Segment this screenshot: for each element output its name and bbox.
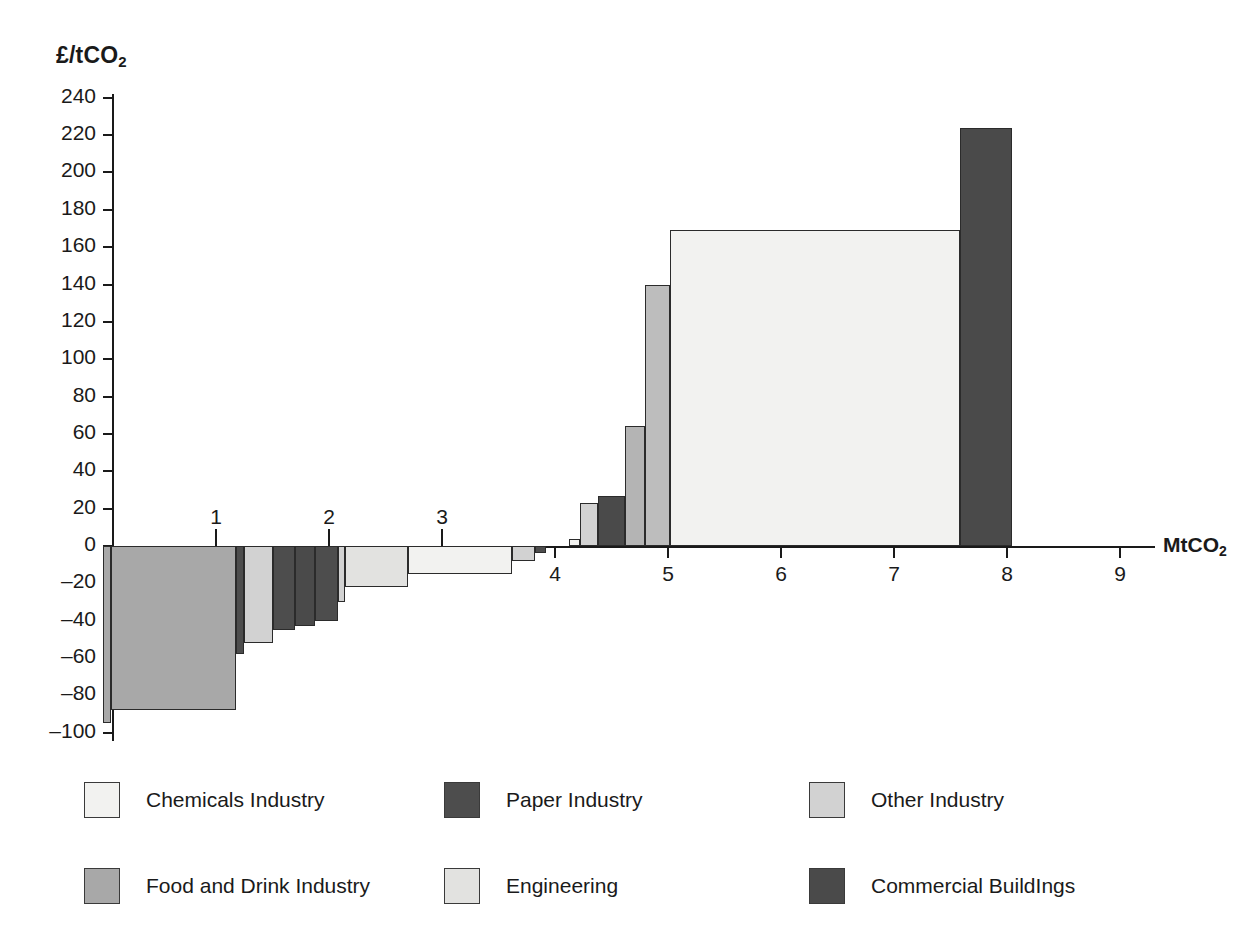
x-axis-tick bbox=[780, 548, 782, 558]
y-axis-tick-label: 60 bbox=[0, 420, 96, 444]
chart-legend: Chemicals IndustryPaper IndustryOther In… bbox=[84, 782, 1174, 922]
bar-segment bbox=[598, 496, 625, 546]
x-axis-tick-label: 1 bbox=[196, 505, 236, 529]
legend-item[interactable]: Paper Industry bbox=[444, 782, 643, 818]
x-axis-tick-label: 2 bbox=[309, 505, 349, 529]
y-axis-tick bbox=[103, 246, 113, 248]
x-axis-tick bbox=[1006, 548, 1008, 558]
x-axis-tick bbox=[215, 529, 217, 547]
y-axis-tick bbox=[103, 134, 113, 136]
y-axis-tick-label: –60 bbox=[0, 644, 96, 668]
bar-segment bbox=[512, 546, 535, 561]
x-axis-tick-label: 5 bbox=[648, 562, 688, 586]
y-axis-tick bbox=[103, 732, 113, 734]
y-axis-tick-label: 120 bbox=[0, 308, 96, 332]
y-axis-tick bbox=[103, 358, 113, 360]
y-axis-title-subscript: 2 bbox=[118, 53, 127, 70]
bar-segment bbox=[645, 285, 670, 546]
bar-segment bbox=[580, 503, 598, 546]
legend-item-label: Engineering bbox=[506, 874, 618, 898]
y-axis-title-main: £/tCO bbox=[56, 42, 118, 68]
legend-item[interactable]: Other Industry bbox=[809, 782, 1004, 818]
bar-segment bbox=[295, 546, 315, 626]
bar-segment bbox=[569, 539, 580, 546]
y-axis-tick bbox=[103, 508, 113, 510]
x-axis-tick-label: 7 bbox=[874, 562, 914, 586]
x-axis-tick bbox=[1119, 548, 1121, 558]
y-axis-tick-label: 180 bbox=[0, 196, 96, 220]
x-axis-tick-label: 4 bbox=[535, 562, 575, 586]
y-axis-tick bbox=[103, 321, 113, 323]
y-axis-tick-label: 0 bbox=[0, 532, 96, 556]
y-axis-tick-label: –80 bbox=[0, 681, 96, 705]
y-axis-tick bbox=[103, 433, 113, 435]
legend-item-label: Food and Drink Industry bbox=[146, 874, 370, 898]
legend-swatch-icon bbox=[444, 868, 480, 904]
y-axis-title: £/tCO2 bbox=[56, 42, 127, 69]
y-axis-tick-label: 20 bbox=[0, 495, 96, 519]
x-axis-tick bbox=[893, 548, 895, 558]
y-axis-tick bbox=[103, 284, 113, 286]
x-axis-tick-label: 8 bbox=[987, 562, 1027, 586]
y-axis-tick-label: 140 bbox=[0, 271, 96, 295]
bar-segment bbox=[535, 546, 546, 553]
bar-segment bbox=[338, 546, 345, 602]
legend-swatch-icon bbox=[444, 782, 480, 818]
legend-item-label: Chemicals Industry bbox=[146, 788, 325, 812]
y-axis-tick bbox=[103, 470, 113, 472]
bar-segment bbox=[625, 426, 645, 546]
legend-swatch-icon bbox=[84, 868, 120, 904]
y-axis-tick-label: –100 bbox=[0, 719, 96, 743]
y-axis-tick-label: 240 bbox=[0, 84, 96, 108]
legend-swatch-icon bbox=[809, 868, 845, 904]
bar-segment bbox=[111, 546, 236, 710]
x-axis-tick-label: 3 bbox=[422, 505, 462, 529]
legend-swatch-icon bbox=[84, 782, 120, 818]
bar-segment bbox=[315, 546, 338, 621]
x-axis-tick-label: 6 bbox=[761, 562, 801, 586]
y-axis-tick bbox=[103, 171, 113, 173]
x-axis-title-subscript: 2 bbox=[1219, 543, 1227, 559]
legend-item-label: Commercial BuildIngs bbox=[871, 874, 1075, 898]
y-axis-tick-label: 200 bbox=[0, 158, 96, 182]
y-axis-tick-label: 220 bbox=[0, 121, 96, 145]
y-axis-tick-label: 100 bbox=[0, 345, 96, 369]
bar-segment bbox=[103, 546, 111, 723]
y-axis-tick bbox=[103, 209, 113, 211]
bar-segment bbox=[670, 230, 959, 546]
y-axis-tick-label: 80 bbox=[0, 383, 96, 407]
legend-item[interactable]: Chemicals Industry bbox=[84, 782, 325, 818]
legend-item[interactable]: Engineering bbox=[444, 868, 618, 904]
y-axis-tick-label: 160 bbox=[0, 233, 96, 257]
x-axis-title: MtCO2 bbox=[1163, 533, 1227, 557]
legend-item[interactable]: Food and Drink Industry bbox=[84, 868, 370, 904]
x-axis-tick-label: 9 bbox=[1100, 562, 1140, 586]
chart-plot-area: £/tCO2 MtCO2 240220200180160140120100806… bbox=[0, 0, 1251, 780]
bar-segment bbox=[273, 546, 296, 630]
x-axis-tick bbox=[328, 529, 330, 547]
x-axis-tick bbox=[667, 548, 669, 558]
y-axis-tick bbox=[103, 396, 113, 398]
x-axis-title-main: MtCO bbox=[1163, 533, 1219, 556]
bar-segment bbox=[236, 546, 244, 654]
bar-segment bbox=[345, 546, 408, 587]
legend-item-label: Paper Industry bbox=[506, 788, 643, 812]
y-axis-tick-label: 40 bbox=[0, 457, 96, 481]
bar-segment bbox=[244, 546, 272, 643]
y-axis-tick-label: –40 bbox=[0, 607, 96, 631]
bar-segment bbox=[960, 128, 1012, 546]
legend-item-label: Other Industry bbox=[871, 788, 1004, 812]
legend-swatch-icon bbox=[809, 782, 845, 818]
legend-item[interactable]: Commercial BuildIngs bbox=[809, 868, 1075, 904]
y-axis-tick bbox=[103, 97, 113, 99]
bar-segment bbox=[408, 546, 512, 574]
x-axis-tick bbox=[554, 548, 556, 558]
y-axis-tick-label: –20 bbox=[0, 569, 96, 593]
x-axis-tick bbox=[441, 529, 443, 547]
